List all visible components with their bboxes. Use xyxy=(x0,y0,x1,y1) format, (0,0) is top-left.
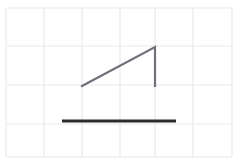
figure-svg xyxy=(0,0,240,163)
right-triangle xyxy=(82,47,155,86)
grid-group xyxy=(6,8,232,157)
drawing-canvas xyxy=(0,0,240,163)
